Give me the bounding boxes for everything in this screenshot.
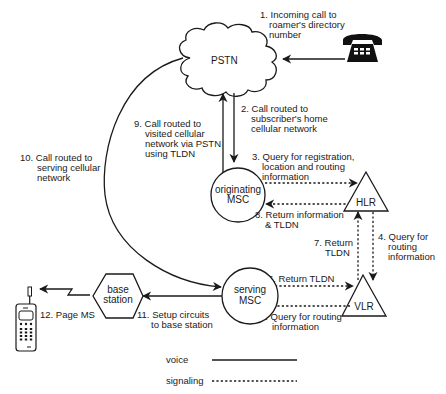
pstn-cloud: PSTN bbox=[180, 23, 277, 96]
step-2-label-line3: cellular network bbox=[251, 123, 317, 134]
step-1-label-line3: number bbox=[269, 29, 301, 40]
svg-text:MSC: MSC bbox=[227, 194, 249, 205]
step-12-arrow bbox=[40, 289, 90, 295]
hlr-node: HLR bbox=[344, 172, 388, 211]
roaming-call-delivery-diagram: PSTN 1. Incoming call to roamer's direct… bbox=[0, 0, 446, 394]
svg-text:VLR: VLR bbox=[354, 301, 373, 312]
svg-text:HLR: HLR bbox=[356, 197, 376, 208]
step-8-label-line2: & TLDN bbox=[265, 219, 299, 230]
pstn-label: PSTN bbox=[211, 55, 238, 66]
legend-signaling-label: signaling bbox=[166, 375, 204, 386]
svg-text:serving: serving bbox=[234, 284, 266, 295]
step-11-label-line2: to base station bbox=[151, 319, 213, 330]
step-5-label-line2: information bbox=[272, 321, 319, 332]
legend-voice-label: voice bbox=[166, 354, 188, 365]
step-10-arrow bbox=[104, 58, 221, 287]
step-7-label-line2: TLDN bbox=[325, 247, 350, 258]
base-station-node: base station bbox=[93, 274, 143, 318]
legend: voice signaling bbox=[166, 354, 297, 386]
mobile-phone-icon bbox=[16, 287, 36, 351]
step-9-label-line4: using TLDN bbox=[145, 148, 195, 159]
step-6-label: 6. Return TLDN bbox=[268, 273, 335, 284]
svg-text:MSC: MSC bbox=[239, 295, 261, 306]
step-12-label: 12. Page MS bbox=[40, 309, 95, 320]
svg-text:station: station bbox=[103, 294, 132, 305]
step-3-label-line3: information bbox=[262, 171, 309, 182]
vlr-node: VLR bbox=[342, 275, 386, 316]
telephone-icon bbox=[343, 34, 382, 62]
serving-msc-node: serving MSC bbox=[222, 268, 278, 324]
step-10-label-line3: network bbox=[37, 172, 71, 183]
step-4-label-line3: information bbox=[388, 251, 435, 262]
